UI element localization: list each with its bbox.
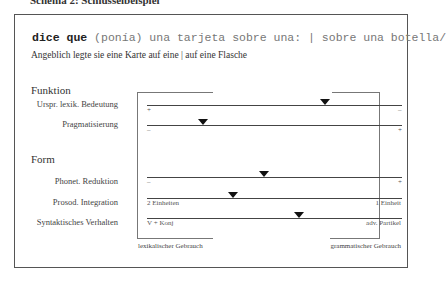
scale-line (147, 198, 402, 199)
marker-triangle-icon (320, 99, 330, 105)
scale-left-end: + (147, 106, 151, 114)
row-label: Phonet. Reduktion (55, 176, 118, 186)
scale-left-end: V + Konj (147, 219, 173, 227)
right-bracket-vertical (379, 92, 380, 239)
scale-line (147, 218, 402, 219)
example-strong: dice que (32, 31, 87, 44)
row-label: Prosod. Integration (53, 197, 118, 207)
scale-left-end: – (147, 178, 151, 186)
marker-triangle-icon (198, 119, 208, 125)
scale-right-end: + (398, 178, 402, 186)
row-label: Pragmatisierung (62, 119, 118, 129)
scale-line (147, 177, 402, 178)
scale-left-end: 2 Einheiten (147, 199, 179, 207)
right-bracket-top (332, 92, 380, 93)
scale-line (147, 125, 402, 126)
cut-off-title: Schema 2: Schlüsselbeispiel (30, 0, 160, 6)
left-bracket-top (137, 92, 213, 93)
marker-triangle-icon (294, 212, 304, 218)
marker-triangle-icon (259, 171, 269, 177)
left-bracket-bottom (137, 238, 213, 239)
pole-right-label: grammatischer Gebrauch (330, 242, 401, 250)
row-label: Urspr. lexik. Bedeutung (37, 99, 118, 109)
scale-right-end: – (398, 106, 402, 114)
marker-triangle-icon (228, 192, 238, 198)
example-translation: Angeblich legte sie eine Karte auf eine … (31, 50, 247, 60)
scale-right-end: 1 Einheit (376, 199, 401, 207)
right-bracket-bottom (330, 238, 380, 239)
example-rest: (ponía) una tarjeta sobre una: | sobre u… (87, 31, 446, 44)
row-label: Syntaktisches Verhalten (37, 217, 118, 227)
section-function: Funktion (31, 84, 71, 96)
left-bracket-vertical (137, 92, 138, 239)
scale-line (147, 105, 402, 106)
scale-left-end: – (147, 126, 151, 134)
pole-left-label: lexikalischer Gebrauch (138, 242, 203, 250)
scale-right-end: + (398, 126, 402, 134)
example-sentence: dice que (ponía) una tarjeta sobre una: … (32, 31, 446, 44)
scale-right-end: adv. Partikel (366, 219, 401, 227)
section-form: Form (31, 153, 55, 165)
